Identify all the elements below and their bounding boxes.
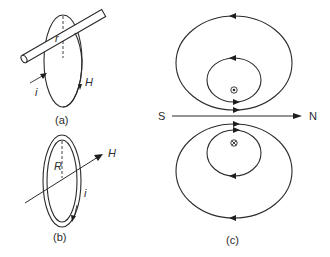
field-line-upper-outer (176, 16, 292, 110)
current-out-of-page-icon (231, 87, 237, 93)
magnetic-field-diagram: r i H (a) R H i (b) (0, 0, 330, 257)
field-line-lower-outer (176, 124, 292, 218)
current-label-a: i (35, 86, 38, 98)
caption-a: (a) (55, 114, 68, 126)
field-label-a: H (85, 76, 93, 88)
current-into-page-icon (231, 140, 237, 146)
current-label-b: i (84, 187, 87, 199)
panel-b: R H i (b) (25, 135, 116, 243)
arrow-lower-outer-bottom (229, 215, 236, 221)
south-pole-label: S (158, 110, 165, 122)
arrow-lower-outer-top (233, 121, 240, 127)
caption-b: (b) (53, 231, 66, 243)
arrow-lower-inner-bottom (229, 173, 236, 179)
arrow-upper-inner-top (229, 55, 236, 61)
field-axis-arrow-b (25, 154, 103, 203)
field-line-upper-inner (207, 58, 261, 102)
north-pole-label: N (309, 110, 317, 122)
arrow-upper-outer-bottom (233, 107, 240, 113)
arrow-upper-inner-bottom (233, 99, 240, 105)
arrow-upper-outer-top (229, 13, 236, 19)
arrow-lower-inner-top (233, 127, 240, 133)
caption-c: (c) (226, 234, 239, 246)
field-line-lower-inner (207, 130, 261, 176)
south-north-axis (172, 113, 302, 119)
panel-c: S N (c) (158, 13, 317, 246)
current-arrow-a (30, 73, 47, 83)
field-label-b: H (108, 147, 116, 159)
radius-label-b: R (54, 160, 62, 172)
panel-a: r i H (a) (20, 10, 106, 126)
